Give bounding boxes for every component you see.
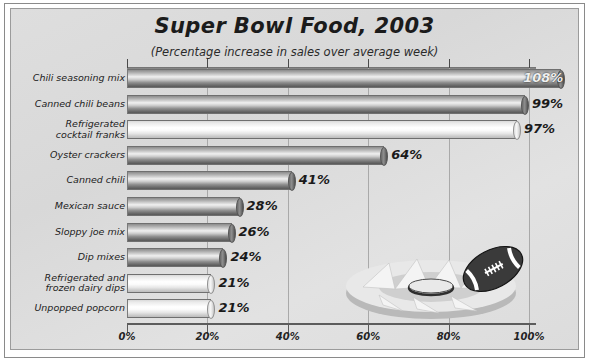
bar-row[interactable]: 21% xyxy=(127,274,251,293)
category-label: Dip mixes xyxy=(13,252,125,263)
bar-value-label: 28% xyxy=(247,198,278,213)
bar-value-label: 24% xyxy=(230,249,261,264)
bar-value-label: 21% xyxy=(218,275,249,290)
bar[interactable] xyxy=(127,146,384,165)
x-axis-tick-label: 100% xyxy=(514,331,545,342)
bar-end-cap xyxy=(207,275,215,294)
bar[interactable] xyxy=(127,120,517,139)
category-label: Refrigerated andfrozen dairy dips xyxy=(13,273,125,294)
category-label: Refrigeratedcocktail franks xyxy=(13,119,125,140)
bar[interactable] xyxy=(127,223,232,242)
bar-value-label: 108% xyxy=(523,70,563,85)
category-label: Unpopped popcorn xyxy=(13,303,125,314)
x-axis-tick-label: 60% xyxy=(356,331,380,342)
axis-bottom-line xyxy=(127,323,536,325)
category-label: Sloppy joe mix xyxy=(13,227,125,238)
bar-end-cap xyxy=(219,249,227,268)
axis-tick-top xyxy=(449,59,450,68)
bar-row[interactable]: 21% xyxy=(127,299,251,318)
bar-end-cap xyxy=(380,147,388,166)
bar-end-cap xyxy=(228,224,236,243)
category-label: Oyster crackers xyxy=(13,150,125,161)
bar[interactable] xyxy=(127,95,525,114)
bar-end-cap xyxy=(513,121,521,140)
axis-tick-top xyxy=(207,59,208,68)
category-label: Canned chili beans xyxy=(13,99,125,110)
axis-tick-top xyxy=(288,59,289,68)
bar[interactable] xyxy=(127,69,561,88)
bar-value-label: 64% xyxy=(391,147,422,162)
bar-row[interactable]: 64% xyxy=(127,146,424,165)
axis-tick-top xyxy=(529,59,530,68)
bar-value-label: 26% xyxy=(239,224,270,239)
x-axis-tick-label: 40% xyxy=(276,331,300,342)
bar[interactable] xyxy=(127,274,211,293)
category-label: Chili seasoning mix xyxy=(13,73,125,84)
category-label: Mexican sauce xyxy=(13,201,125,212)
bar-end-cap xyxy=(236,198,244,217)
x-axis-tick-label: 20% xyxy=(195,331,219,342)
category-label-column: Chili seasoning mixCanned chili beansRef… xyxy=(11,9,125,350)
bar-end-cap xyxy=(207,300,215,319)
axis-tick-top xyxy=(127,59,128,68)
bar-value-label: 99% xyxy=(532,96,563,111)
axis-tick-top xyxy=(368,59,369,68)
bar-row[interactable]: 26% xyxy=(127,223,272,242)
bar-row[interactable]: 108% xyxy=(127,69,579,88)
bar-end-cap xyxy=(288,172,296,191)
x-axis-tick-label: 0% xyxy=(119,331,136,342)
bar-row[interactable]: 41% xyxy=(127,171,332,190)
bar-row[interactable]: 28% xyxy=(127,197,280,216)
bar-end-cap xyxy=(521,96,529,115)
bar-value-label: 97% xyxy=(524,121,555,136)
bar-value-label: 21% xyxy=(218,300,249,315)
bar-value-label: 41% xyxy=(299,172,330,187)
bar[interactable] xyxy=(127,171,292,190)
category-label: Canned chili xyxy=(13,175,125,186)
bar[interactable] xyxy=(127,299,211,318)
chart-frame: Super Bowl Food, 2003 (Percentage increa… xyxy=(4,3,585,358)
bar[interactable] xyxy=(127,197,240,216)
chart-plot-panel: Super Bowl Food, 2003 (Percentage increa… xyxy=(10,8,579,350)
x-axis-tick-label: 80% xyxy=(437,331,461,342)
bar-row[interactable]: 24% xyxy=(127,248,263,267)
bar-row[interactable]: 97% xyxy=(127,120,557,139)
bar[interactable] xyxy=(127,248,223,267)
bar-row[interactable]: 99% xyxy=(127,95,565,114)
